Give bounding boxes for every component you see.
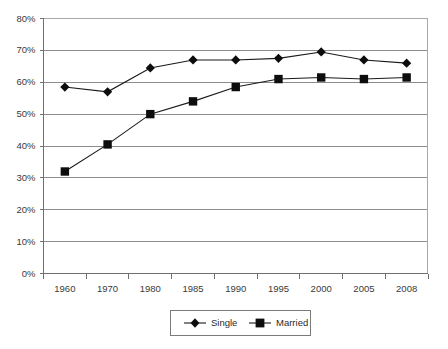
x-tick-label: 1980: [140, 283, 161, 294]
data-point-square: [317, 73, 325, 81]
legend-entry-married[interactable]: Married: [249, 317, 308, 328]
data-point-square: [103, 140, 111, 148]
x-tick-label: 2005: [353, 283, 374, 294]
y-tick-label: 30%: [16, 172, 36, 183]
y-tick-label: 70%: [16, 44, 36, 55]
y-tick-label: 0%: [22, 268, 36, 279]
x-tick-label: 1995: [268, 283, 289, 294]
data-point-square: [360, 75, 368, 83]
square-icon: [256, 319, 265, 328]
chart-container: 0%10%20%30%40%50%60%70%80% 1960197019801…: [0, 0, 448, 349]
y-tick-label: 60%: [16, 76, 36, 87]
data-point-square: [146, 110, 154, 118]
y-tick-label: 40%: [16, 140, 36, 151]
x-tick-label: 2000: [311, 283, 332, 294]
y-tick-label: 80%: [16, 13, 36, 24]
line-chart: 0%10%20%30%40%50%60%70%80% 1960197019801…: [0, 0, 448, 349]
legend-label-married: Married: [276, 317, 308, 328]
data-point-square: [232, 83, 240, 91]
y-axis-tick-labels: 0%10%20%30%40%50%60%70%80%: [16, 13, 36, 279]
data-point-square: [402, 73, 410, 81]
y-tick-label: 20%: [16, 204, 36, 215]
x-tick-label: 1970: [97, 283, 118, 294]
x-tick-label: 1985: [182, 283, 203, 294]
y-tick-label: 50%: [16, 108, 36, 119]
y-tick-label: 10%: [16, 236, 36, 247]
x-axis-tick-labels: 196019701980198519901995200020052008: [54, 283, 417, 294]
legend-label-single: Single: [211, 317, 237, 328]
data-point-square: [274, 75, 282, 83]
x-tick-label: 1960: [54, 283, 75, 294]
x-tick-label: 2008: [396, 283, 417, 294]
x-tick-label: 1990: [225, 283, 246, 294]
chart-legend: Single Married: [171, 311, 311, 336]
data-point-square: [61, 167, 69, 175]
data-point-square: [189, 97, 197, 105]
